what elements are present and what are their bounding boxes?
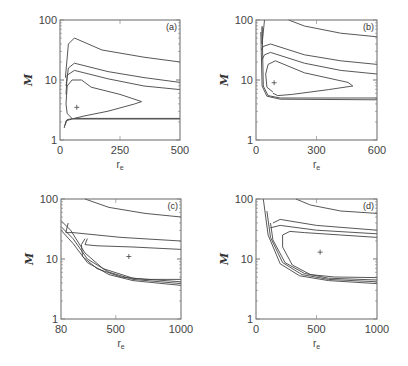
- figure-canvas: 1101000250500reM(a)1101000300600reM(b)11…: [0, 0, 408, 366]
- contour-line: [65, 118, 180, 125]
- contour-line: [283, 231, 377, 277]
- x-axis-label: re: [313, 338, 320, 350]
- best-fit-marker: [318, 250, 323, 255]
- contour-line: [66, 63, 180, 86]
- axes-frame: [256, 199, 377, 319]
- contour-line: [262, 20, 264, 44]
- x-tick-label: 1000: [169, 323, 193, 335]
- panel-tag: (d): [363, 201, 374, 211]
- x-tick-label: 1000: [365, 323, 389, 335]
- contour-line: [290, 231, 377, 237]
- contour-line: [271, 223, 378, 280]
- y-tick-label: 10: [241, 74, 253, 86]
- panel-c: 110100805001000reM(c): [23, 193, 193, 350]
- axes-frame: [61, 199, 181, 319]
- y-axis-label: M: [23, 252, 36, 266]
- best-fit-marker: [272, 80, 277, 85]
- contour-line: [262, 52, 377, 74]
- x-tick-label: 600: [368, 144, 386, 156]
- panel-tag: (a): [166, 22, 177, 32]
- x-axis-label: re: [117, 338, 124, 350]
- x-axis-label: re: [116, 159, 123, 171]
- y-tick-label: 100: [40, 193, 58, 205]
- x-tick-label: 300: [307, 144, 325, 156]
- contour-line: [263, 199, 377, 284]
- x-tick-label: 500: [107, 323, 125, 335]
- y-axis-label: M: [218, 73, 231, 87]
- contour-line: [66, 80, 142, 118]
- panel-d: 11010005001000reM(d): [218, 193, 389, 350]
- y-tick-label: 100: [39, 14, 57, 26]
- panel-tag: (b): [363, 22, 374, 32]
- contour-line: [65, 38, 180, 78]
- contour-line: [267, 211, 377, 282]
- contour-line: [81, 239, 181, 280]
- contour-line: [271, 225, 378, 233]
- x-tick-label: 0: [57, 144, 63, 156]
- y-axis-label: M: [218, 252, 231, 266]
- axes-frame: [256, 20, 377, 140]
- contour-line: [66, 223, 181, 241]
- x-tick-label: 0: [253, 144, 259, 156]
- y-tick-label: 100: [235, 193, 253, 205]
- x-tick-label: 0: [253, 323, 259, 335]
- x-tick-label: 500: [171, 144, 189, 156]
- y-tick-label: 10: [45, 74, 57, 86]
- panel-tag: (c): [168, 201, 179, 211]
- y-tick-label: 10: [46, 253, 58, 265]
- y-tick-label: 10: [241, 253, 253, 265]
- contour-line: [261, 44, 377, 64]
- best-fit-marker: [74, 105, 79, 110]
- best-fit-marker: [126, 254, 131, 259]
- x-tick-label: 80: [55, 323, 67, 335]
- y-axis-label: M: [22, 73, 35, 87]
- x-tick-label: 500: [307, 323, 325, 335]
- panel-b: 1101000300600reM(b): [218, 14, 386, 171]
- contour-line: [266, 61, 353, 96]
- panel-a: 1101000250500reM(a): [22, 14, 189, 171]
- contour-line: [64, 119, 180, 128]
- y-tick-label: 100: [235, 14, 253, 26]
- x-tick-label: 250: [111, 144, 129, 156]
- contour-line: [61, 227, 181, 284]
- x-axis-label: re: [313, 159, 320, 171]
- contour-line: [273, 219, 377, 230]
